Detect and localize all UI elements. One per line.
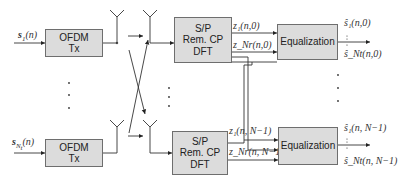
output-s1-N-1: ŝ₁(n, N−1) <box>344 122 386 133</box>
equalization-box-top: Equalization <box>277 24 338 60</box>
ofdm-tx-box-bottom: OFDM Tx <box>45 139 103 167</box>
rx-label-line1: S/P <box>192 136 208 148</box>
rx-label-line2: Rem. CP <box>180 147 221 159</box>
equalization-label: Equalization <box>281 140 335 152</box>
tx-label-line1: OFDM <box>59 32 88 44</box>
sp-remcp-dft-box-top: S/P Rem. CP DFT <box>174 17 232 63</box>
output-sNt-0: ŝ_Nt(n,0) <box>344 48 382 59</box>
equalization-label: Equalization <box>280 36 334 48</box>
tx-label-line1: OFDM <box>59 142 88 154</box>
output-sNt-N-1: ŝ_Nt(n, N−1) <box>344 155 397 166</box>
output-s1-0: ŝ₁(n,0) <box>344 17 371 28</box>
signal-z1-N-1: z₁(n, N−1) <box>229 125 271 136</box>
input-label-bottom: sNt(n) <box>12 136 34 152</box>
tx-label-line2: Tx <box>68 153 79 165</box>
signal-z1-0: z₁(n,0) <box>233 20 260 31</box>
input-label-top: s1(n) <box>18 29 37 43</box>
sp-remcp-dft-box-bottom: S/P Rem. CP DFT <box>172 131 228 175</box>
ofdm-tx-box-top: OFDM Tx <box>45 29 103 57</box>
tx-label-line2: Tx <box>68 43 79 55</box>
signal-zNr-N-1: z_Nr(n, N−1) <box>229 146 284 157</box>
rx-label-line3: DFT <box>193 46 212 58</box>
rx-label-line2: Rem. CP <box>183 34 224 46</box>
rx-label-line1: S/P <box>195 23 211 35</box>
rx-label-line3: DFT <box>190 159 209 171</box>
signal-zNr-0: z_Nr(n,0) <box>233 39 272 50</box>
equalization-box-bottom: Equalization <box>278 127 338 165</box>
